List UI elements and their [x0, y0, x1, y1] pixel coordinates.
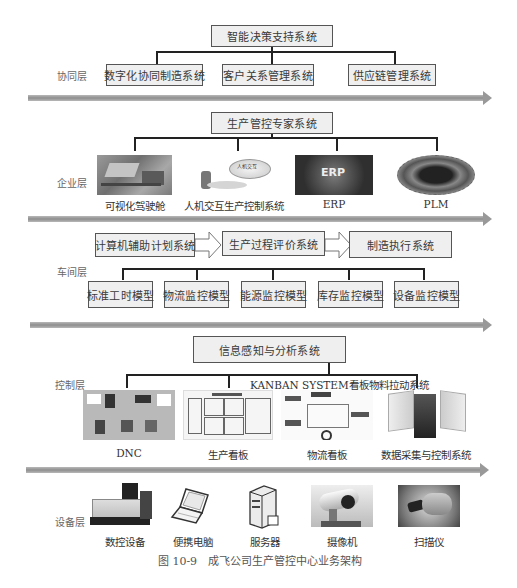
production-kanban-caption: 生产看板 [183, 447, 273, 462]
inventory-monitor-model-box: 库存监控模型 [318, 281, 383, 308]
dnc-image [83, 390, 175, 440]
erp-image: ERP [295, 155, 373, 195]
info-perception-analysis-box: 信息感知与分析系统 [193, 336, 346, 363]
layer-label-device: 设备层 [55, 514, 85, 529]
production-evaluation-box: 生产过程评价系统 [222, 231, 325, 256]
energy-monitor-model-box: 能源监控模型 [241, 281, 306, 308]
hmi-caption: 人机交互生产控制系统 [180, 198, 288, 213]
data-acquisition-image [384, 386, 468, 442]
hmi-image: 人机交互 [193, 155, 273, 195]
logistics-kanban-caption: 物流看板 [281, 447, 373, 462]
layer-label-control: 控制层 [55, 377, 85, 392]
connector [336, 137, 338, 151]
connector [237, 137, 239, 151]
decision-support-box: 智能决策支持系统 [211, 25, 333, 47]
layer-arrow [30, 322, 484, 328]
layer-arrow [26, 467, 481, 473]
hmi-inner-label: 人机交互 [237, 162, 257, 169]
server-icon [246, 484, 284, 530]
erp-inner-label: ERP [321, 166, 345, 179]
figure-caption: 图 10-9 成飞公司生产管控中心业务架构 [130, 552, 390, 568]
digital-collab-manufacturing-box: 数字化协同制造系统 [106, 64, 203, 86]
layer-label-collaboration: 协同层 [57, 68, 87, 83]
camera-caption: 摄像机 [311, 534, 373, 549]
crm-box: 客户关系管理系统 [222, 64, 314, 86]
erp-caption: ERP [295, 198, 373, 210]
laptop-icon [170, 487, 214, 525]
flow-arrow-icon [195, 231, 222, 259]
connector [436, 137, 438, 151]
cnc-machine-image [90, 483, 160, 527]
connector [271, 51, 273, 65]
plm-image [397, 153, 475, 195]
connector [156, 51, 158, 65]
layer-label-workshop: 车间层 [57, 264, 87, 279]
layer-arrow [28, 95, 484, 101]
production-kanban-image [183, 390, 273, 440]
logistics-monitor-model-box: 物流监控模型 [164, 281, 229, 308]
logistics-kanban-image [281, 390, 373, 440]
scm-box: 供应链管理系统 [348, 64, 436, 86]
cnc-machine-caption: 数控设备 [90, 534, 160, 549]
dnc-caption: DNC [83, 447, 175, 459]
layer-label-enterprise: 企业层 [57, 175, 87, 190]
production-expert-system-box: 生产管控专家系统 [211, 112, 333, 134]
connector [228, 374, 230, 388]
scanner-caption: 扫描仪 [398, 534, 460, 549]
plm-caption: PLM [397, 198, 475, 210]
connector [122, 268, 124, 280]
visual-cockpit-image [97, 155, 172, 195]
mes-box: 制造执行系统 [349, 231, 452, 258]
connector [423, 268, 425, 280]
connector [134, 137, 136, 151]
visual-cockpit-caption: 可视化驾驶舱 [92, 198, 177, 213]
equipment-monitor-model-box: 设备监控模型 [394, 281, 459, 308]
connector [348, 268, 350, 280]
connector [126, 374, 418, 376]
connector [156, 51, 396, 53]
layer-arrow [28, 216, 484, 222]
data-acquisition-caption: 数据采集与控制系统 [376, 447, 476, 462]
standard-hours-model-box: 标准工时模型 [88, 281, 153, 308]
connector [394, 51, 396, 65]
computer-aided-planning-box: 计算机辅助计划系统 [95, 233, 195, 257]
connector [126, 374, 128, 388]
scanner-image [398, 485, 460, 527]
server-caption: 服务器 [240, 534, 290, 549]
connector [272, 268, 274, 280]
flow-arrow-icon [325, 231, 352, 259]
connector [196, 268, 198, 280]
camera-image [311, 485, 373, 527]
laptop-caption: 便携电脑 [160, 534, 226, 549]
connector [134, 137, 438, 139]
